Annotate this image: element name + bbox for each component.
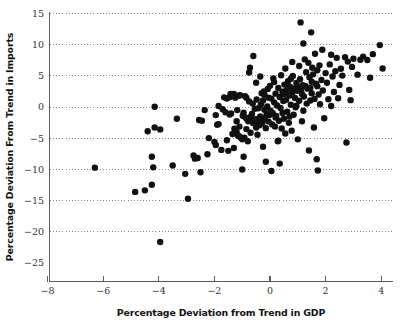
data-point [336,82,342,88]
data-point [322,70,328,76]
data-point [275,137,281,143]
data-point [151,124,157,130]
data-point [157,239,163,245]
data-point [289,59,295,65]
x-tick-label--8: −8 [41,285,55,296]
data-point [364,57,370,63]
data-point [218,147,224,153]
data-point [286,120,292,126]
y-tick-labels: 151050−5−10−15−20−25 [24,8,44,268]
data-point [338,66,344,72]
y-tick-label-15: 15 [32,8,44,19]
y-tick-label--20: −20 [24,226,44,237]
y-tick-label--10: −10 [24,164,44,175]
data-point [225,148,231,154]
data-point [315,167,321,173]
data-point [233,118,239,124]
data-point [231,145,237,151]
data-point [325,96,331,102]
data-point [149,154,155,160]
data-point [331,89,337,95]
x-tick-label--6: −6 [96,285,110,296]
data-point [282,130,288,136]
data-point [278,72,284,78]
data-point [260,97,266,103]
plot-canvas: 151050−5−10−15−20−25 −8−6−4−2024 Percent… [0,0,403,325]
data-point [149,182,155,188]
data-point [151,103,157,109]
data-point [308,29,314,35]
data-point [377,42,383,48]
data-point [215,103,221,109]
data-point [226,111,232,117]
data-point [253,96,259,102]
y-tick-label--5: −5 [30,133,44,144]
data-point [346,87,352,93]
data-point [206,135,212,141]
data-point [339,72,345,78]
data-point [299,118,305,124]
data-point [92,164,98,170]
data-point [286,113,292,119]
data-point [272,114,278,120]
data-point [258,90,264,96]
data-point [132,189,138,195]
data-point [281,116,287,122]
x-tick-label-2: 2 [323,285,329,296]
data-point [295,136,301,142]
x-tick-label--4: −4 [152,285,166,296]
data-point [239,166,245,172]
data-point [277,160,283,166]
data-point [347,97,353,103]
data-point [316,62,322,68]
data-point [240,154,246,160]
data-point [321,115,327,121]
data-point [309,90,315,96]
data-point [309,79,315,85]
data-point [253,80,259,86]
data-point [319,47,325,53]
data-point [197,169,203,175]
data-point [297,19,303,25]
data-point [297,76,303,82]
data-points [92,19,386,245]
data-point [349,64,355,70]
data-point [224,137,230,143]
data-point [204,151,210,157]
data-point [199,117,205,123]
data-point [174,116,180,122]
data-point [318,77,324,83]
data-point [213,112,219,118]
data-point [307,97,313,103]
data-point [185,196,191,202]
data-point [334,55,340,61]
data-point [234,107,240,113]
data-point [263,125,269,131]
y-tick-label-10: 10 [32,39,44,50]
data-point [247,130,253,136]
x-tick-labels: −8−6−4−2024 [41,285,385,296]
x-tick-label-4: 4 [378,285,384,296]
data-point [279,110,285,116]
data-point [317,101,323,107]
data-point [312,51,318,57]
data-point [350,56,356,62]
tick-marks [48,276,382,282]
data-point [252,106,258,112]
data-point [213,142,219,148]
data-point [320,87,326,93]
y-tick-label-5: 5 [38,70,44,81]
data-point [250,53,256,59]
data-point [332,68,338,74]
data-point [299,91,305,97]
data-point [296,63,302,69]
data-point [314,83,320,89]
data-point [254,131,260,137]
data-point [307,85,313,91]
data-point [314,156,320,162]
data-point [144,128,150,134]
data-point [263,159,269,165]
data-point [247,65,253,71]
x-tick-label--2: −2 [207,285,221,296]
data-point [370,51,376,57]
